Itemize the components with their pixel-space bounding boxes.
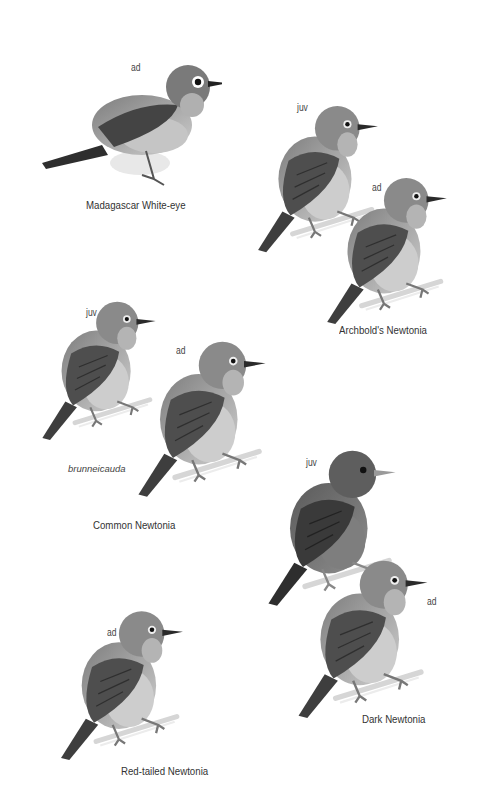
subspecies-label: brunneicauda [68,463,126,474]
age-label: ad [372,182,381,193]
species-name-common-newtonia: Common Newtonia [93,519,175,531]
bird-illustration-icon [42,605,202,760]
age-label: ad [427,596,436,607]
species-name-red-tailed-newtonia: Red-tailed Newtonia [121,765,208,777]
bird-illustration-icon [292,551,434,721]
age-label: juv [86,307,97,318]
species-name-madagascar-white-eye: Madagascar White-eye [86,199,186,211]
bird-illustration-icon [132,330,272,502]
species-name-dark-newtonia: Dark Newtonia [362,713,425,725]
age-label: ad [107,627,116,638]
age-label: ad [131,62,140,73]
age-label: juv [306,457,317,468]
age-label: ad [176,345,185,356]
age-label: juv [297,102,308,113]
species-name-archbolds-newtonia: Archbold's Newtonia [339,324,427,336]
bird-illustration-icon [42,55,222,195]
bird-illustration-icon [312,172,462,324]
